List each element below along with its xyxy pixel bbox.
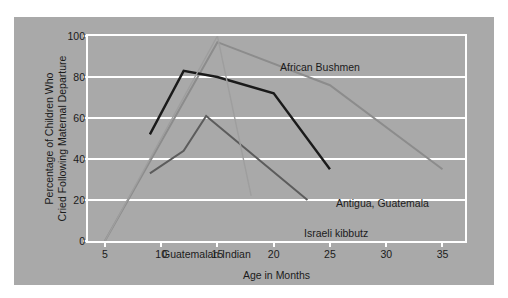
x-tick-label: 20 [259,249,289,260]
x-tick-mark [216,241,218,247]
x-tick-label: 35 [427,249,457,260]
y-axis-title: Percentage of Children Who Cried Followi… [28,34,84,243]
series-label: Antigua, Guatemala [336,198,429,209]
x-tick-mark [160,241,162,247]
x-tick-mark [273,241,275,247]
x-tick-mark [385,241,387,247]
y-tick-label: 100 [55,31,85,42]
x-tick-mark [329,241,331,247]
y-axis-title-line-1: Percentage of Children Who [43,73,55,205]
series-label: African Bushmen [280,62,360,73]
series-lines [88,36,465,241]
series-line [150,116,308,200]
y-tick-label: 80 [55,72,85,83]
x-tick-mark [104,241,106,247]
series-label: Israeli kibbutz [304,228,368,239]
series-line [105,42,443,241]
x-tick-label: 5 [90,249,120,260]
plot-area: 020406080100 5101520253035 [86,34,467,243]
y-tick-label: 40 [55,154,85,165]
y-tick-label: 0 [55,236,85,247]
x-tick-mark [441,241,443,247]
x-axis-title: Age in Months [86,269,467,281]
series-line [105,36,251,241]
y-tick-label: 60 [55,113,85,124]
x-tick-label: 25 [315,249,345,260]
chart-figure: Percentage of Children Who Cried Followi… [14,17,494,285]
y-tick-label: 20 [55,195,85,206]
series-label: Guatemalan Indian [162,249,251,260]
x-tick-label: 30 [371,249,401,260]
